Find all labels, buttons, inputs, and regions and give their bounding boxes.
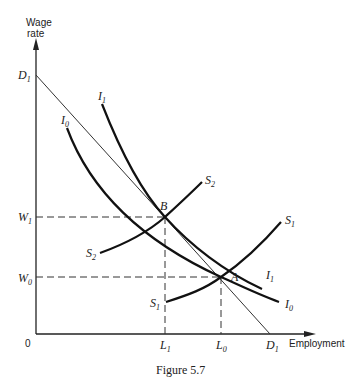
indifference-curve-i1 <box>102 104 262 289</box>
x-axis-arrow-icon <box>304 331 316 337</box>
label-i1-end: I1 <box>265 268 274 284</box>
label-l0: L0 <box>215 338 227 354</box>
indifference-curve-i0 <box>67 128 279 302</box>
label-i0-top: I0 <box>60 113 69 129</box>
origin-label: 0 <box>25 338 31 349</box>
supply-curve-s1 <box>166 222 281 302</box>
y-axis-label-line2: rate <box>27 28 45 39</box>
y-axis-label-line1: Wage <box>26 17 52 28</box>
label-l1: L1 <box>159 338 171 354</box>
figure-caption: Figure 5.7 <box>156 363 205 377</box>
figure-diagram: Wage rate Employment 0 D1 D1 W1 W0 L1 L0… <box>0 0 363 386</box>
label-i1-top: I1 <box>97 89 106 105</box>
label-d1-top: D1 <box>17 68 31 84</box>
label-s2-bottom: S2 <box>86 246 96 262</box>
label-w0: W0 <box>18 271 32 287</box>
label-point-a: A <box>230 270 239 284</box>
label-w1: W1 <box>18 210 32 226</box>
x-axis-label: Employment <box>289 338 345 349</box>
label-s1-top: S1 <box>285 213 295 229</box>
label-s2-top: S2 <box>205 173 215 189</box>
label-s1-bottom: S1 <box>150 296 160 312</box>
label-point-b: B <box>160 199 168 213</box>
label-d1-bottom: D1 <box>265 338 279 354</box>
label-i0-end: I0 <box>284 297 293 313</box>
y-axis-arrow-icon <box>33 38 39 50</box>
